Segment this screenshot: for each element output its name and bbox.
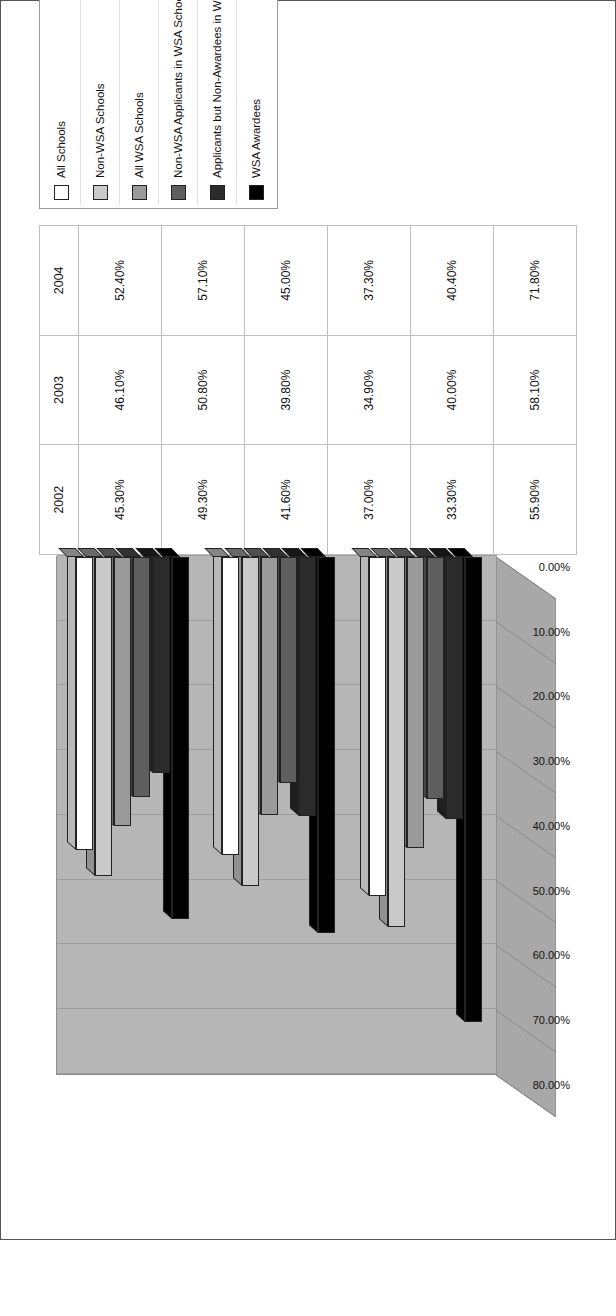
bar-face <box>465 557 482 1022</box>
legend-swatch-icon <box>171 185 186 200</box>
table-row: 37.00%34.90%37.30% <box>328 226 411 555</box>
table-cell-r1-c2: 57.10% <box>162 226 245 336</box>
bar-face <box>299 557 316 816</box>
bar-2004-5 <box>465 557 482 1022</box>
table-cell-r5-c1: 58.10% <box>494 335 577 445</box>
bar-2004-2 <box>407 557 424 848</box>
y-tick-label: 20.00% <box>506 691 570 703</box>
table-cell-r1-c0: 49.30% <box>162 445 245 555</box>
bar-top <box>213 549 222 856</box>
bar-face <box>261 557 278 815</box>
bar-face <box>369 557 386 896</box>
bar-2002-0 <box>76 557 93 850</box>
bar-top <box>360 549 369 896</box>
legend-item-5[interactable]: WSA Awardees <box>237 0 275 205</box>
bar-2002-1 <box>95 557 112 876</box>
bar-face <box>280 557 297 783</box>
legend-swatch-icon <box>210 185 225 200</box>
y-tick-label: 50.00% <box>506 885 570 897</box>
table-cell-r3-c1: 34.90% <box>328 335 411 445</box>
legend-swatch-icon <box>93 185 108 200</box>
bar-face <box>318 557 335 933</box>
table-cell-r0-c2: 52.40% <box>79 226 162 336</box>
y-tick-label: 80.00% <box>506 1079 570 1091</box>
bar-2003-1 <box>242 557 259 886</box>
y-tick-label: 0.00% <box>506 561 570 573</box>
bar-face <box>242 557 259 886</box>
table-header-row: 2002 2003 2004 <box>40 226 79 555</box>
bar-face <box>133 557 150 797</box>
plot-floor <box>496 557 556 1117</box>
bar-face <box>153 557 170 773</box>
bar-face <box>114 557 131 826</box>
table-cell-r2-c2: 45.00% <box>245 226 328 336</box>
legend-item-3[interactable]: Non-WSA Applicants in WSA Schools <box>159 0 198 205</box>
chart-frame: 0.00%10.00%20.00%30.00%40.00%50.00%60.00… <box>0 0 616 1240</box>
table-cell-r2-c0: 41.60% <box>245 445 328 555</box>
bar-2004-3 <box>427 557 444 799</box>
legend-item-1[interactable]: Non-WSA Schools <box>81 0 120 205</box>
bar-group-2002 <box>56 557 203 1075</box>
bar-top <box>67 549 76 850</box>
legend-item-4[interactable]: Applicants but Non-Awardees in WSA Schoo… <box>198 0 237 205</box>
table-cell-r1-c1: 50.80% <box>162 335 245 445</box>
bar-series-layer <box>56 557 496 1075</box>
bar-2002-2 <box>114 557 131 826</box>
table-cell-r4-c0: 33.30% <box>411 445 494 555</box>
y-tick-label: 70.00% <box>506 1014 570 1026</box>
table-cell-r4-c1: 40.00% <box>411 335 494 445</box>
bar-2003-2 <box>261 557 278 815</box>
y-tick-label: 60.00% <box>506 950 570 962</box>
table-row: 41.60%39.80%45.00% <box>245 226 328 555</box>
bar-face <box>222 557 239 855</box>
bar-2003-5 <box>318 557 335 933</box>
y-tick-label: 40.00% <box>506 820 570 832</box>
bar-face <box>172 557 189 919</box>
table-body: 45.30%46.10%52.40%49.30%50.80%57.10%41.6… <box>79 226 577 555</box>
bar-face <box>427 557 444 799</box>
legend-swatch-icon <box>249 185 264 200</box>
table-head: 2002 2003 2004 <box>40 226 79 555</box>
bar-face <box>95 557 112 876</box>
table-header-2002: 2002 <box>40 445 79 555</box>
table-row: 45.30%46.10%52.40% <box>79 226 162 555</box>
table-cell-r0-c1: 46.10% <box>79 335 162 445</box>
bar-face <box>76 557 93 850</box>
bar-group-2004 <box>349 557 496 1075</box>
table-row: 49.30%50.80%57.10% <box>162 226 245 555</box>
legend-item-2[interactable]: All WSA Schools <box>120 0 159 205</box>
table-row: 33.30%40.00%40.40% <box>411 226 494 555</box>
legend-item-label: Applicants but Non-Awardees in WSA Schoo… <box>211 0 223 178</box>
table-cell-r0-c0: 45.30% <box>79 445 162 555</box>
bar-2003-4 <box>299 557 316 816</box>
chart-legend: All SchoolsNon-WSA SchoolsAll WSA School… <box>39 0 278 209</box>
legend-item-label: WSA Awardees <box>250 99 262 178</box>
legend-item-label: Non-WSA Applicants in WSA Schools <box>172 0 184 178</box>
chart-container: 0.00%10.00%20.00%30.00%40.00%50.00%60.00… <box>0 0 616 1240</box>
table-cell-r4-c2: 40.40% <box>411 226 494 336</box>
table-cell-r5-c2: 71.80% <box>494 226 577 336</box>
bar-2004-4 <box>446 557 463 819</box>
bar-2002-3 <box>133 557 150 797</box>
legend-swatch-icon <box>54 185 69 200</box>
bar-face <box>446 557 463 819</box>
bar-2003-0 <box>222 557 239 855</box>
legend-item-label: Non-WSA Schools <box>94 83 106 178</box>
bar-face <box>407 557 424 848</box>
legend-item-label: All WSA Schools <box>133 92 145 178</box>
bar-2004-1 <box>388 557 405 927</box>
bar-2004-0 <box>369 557 386 896</box>
bar-group-2003 <box>203 557 350 1075</box>
y-tick-label: 10.00% <box>506 626 570 638</box>
bar-2003-3 <box>280 557 297 783</box>
legend-item-0[interactable]: All Schools <box>42 0 81 205</box>
table-cell-r5-c0: 55.90% <box>494 445 577 555</box>
table-cell-r2-c1: 39.80% <box>245 335 328 445</box>
bar-face <box>388 557 405 927</box>
data-table: 2002 2003 2004 45.30%46.10%52.40%49.30%5… <box>39 225 577 555</box>
table-cell-r3-c0: 37.00% <box>328 445 411 555</box>
table-cell-r3-c2: 37.30% <box>328 226 411 336</box>
table-header-2004: 2004 <box>40 226 79 336</box>
table-header-2003: 2003 <box>40 335 79 445</box>
legend-item-label: All Schools <box>55 121 67 178</box>
